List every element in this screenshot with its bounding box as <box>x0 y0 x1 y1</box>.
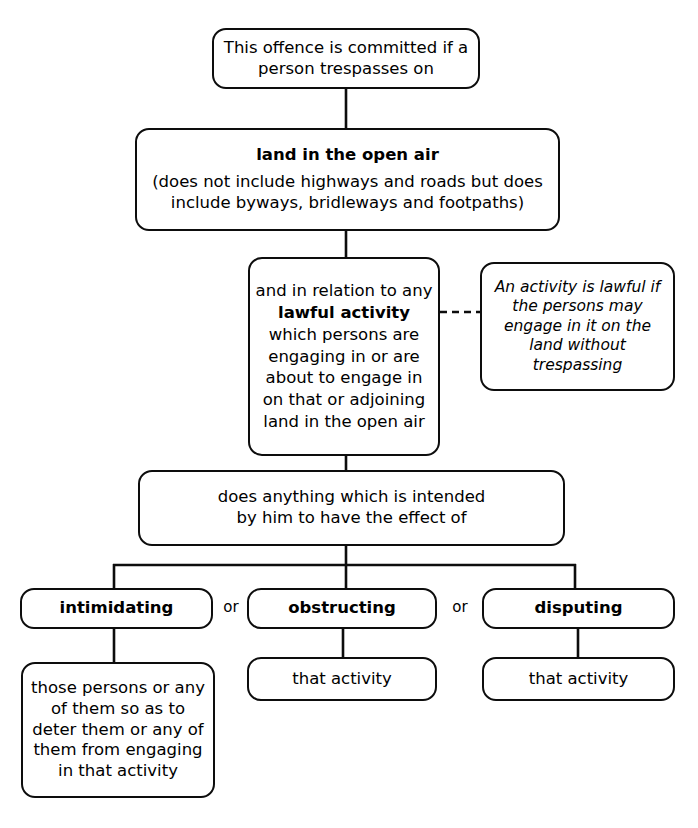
node-land-heading: land in the open air <box>256 145 439 166</box>
node-trespass: This offence is committed if a person tr… <box>212 28 480 89</box>
node-lawful-heading: lawful activity <box>278 302 410 324</box>
node-land-line-1: (does not include highways and roads but… <box>152 172 543 193</box>
node-definition-line-3: engage in it on the <box>504 317 651 337</box>
node-lawful-activity: and in relation to any lawful activity w… <box>248 257 440 456</box>
node-definition-line-2: the persons may <box>512 297 642 317</box>
node-definition-line-4: land without <box>529 336 626 356</box>
node-land-in-the-open-air: land in the open air (does not include h… <box>135 128 560 231</box>
node-deter-line-3: deter them or any of <box>32 720 203 741</box>
node-activity-2-label: that activity <box>529 669 629 690</box>
node-that-activity-obstructing: that activity <box>247 657 437 701</box>
node-deter-line-2: of them so as to <box>51 699 185 720</box>
node-intent-line-1: does anything which is intended <box>218 487 486 508</box>
node-lawful-line-2: which persons are <box>269 324 419 346</box>
connector-label-or-1: or <box>216 598 246 616</box>
node-obstructing: obstructing <box>247 588 437 629</box>
node-definition-line-5: trespassing <box>533 356 623 376</box>
node-definition-line-1: An activity is lawful if <box>495 278 660 298</box>
node-activity-1-label: that activity <box>292 669 392 690</box>
node-lawful-line-6: land in the open air <box>263 411 424 433</box>
node-deter-those-persons: those persons or any of them so as to de… <box>21 662 215 798</box>
node-obstructing-label: obstructing <box>288 598 396 619</box>
node-trespass-line-2: person trespasses on <box>258 59 434 80</box>
node-deter-line-1: those persons or any <box>31 678 205 699</box>
node-intent-line-2: by him to have the effect of <box>236 508 466 529</box>
node-lawful-line-4: about to engage in <box>266 367 423 389</box>
node-trespass-line-1: This offence is committed if a <box>224 38 468 59</box>
node-intent: does anything which is intended by him t… <box>138 470 565 546</box>
node-land-line-2: include byways, bridleways and footpaths… <box>171 193 524 214</box>
connector-label-or-2: or <box>440 598 480 616</box>
node-disputing: disputing <box>482 588 675 629</box>
node-intimidating-label: intimidating <box>60 598 174 619</box>
node-lawful-line-1: and in relation to any <box>256 280 433 302</box>
flowchart-canvas: This offence is committed if a person tr… <box>0 0 698 828</box>
node-intimidating: intimidating <box>20 588 213 629</box>
node-that-activity-disputing: that activity <box>482 657 675 701</box>
node-lawful-definition: An activity is lawful if the persons may… <box>480 262 675 391</box>
node-lawful-line-5: on that or adjoining <box>263 389 426 411</box>
node-deter-line-5: in that activity <box>58 761 178 782</box>
node-lawful-line-3: engaging in or are <box>268 346 420 368</box>
node-disputing-label: disputing <box>535 598 623 619</box>
node-deter-line-4: them from engaging <box>33 740 202 761</box>
